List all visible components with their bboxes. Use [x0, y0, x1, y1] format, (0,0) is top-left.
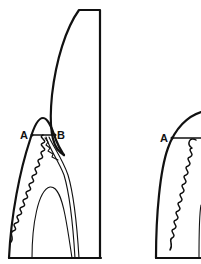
- left-panel: A B: [9, 10, 101, 258]
- right-inner-arch: [199, 205, 201, 258]
- left-point-a-marker: [31, 134, 34, 137]
- right-label-a: A: [160, 132, 168, 144]
- left-label-a: A: [20, 129, 28, 141]
- left-inner-arch: [32, 187, 72, 258]
- left-wavy-line: [11, 135, 45, 242]
- left-label-b: B: [57, 129, 65, 141]
- right-wavy-line: [170, 139, 196, 250]
- right-point-a-marker: [171, 137, 174, 140]
- diagram-canvas: A B A: [0, 0, 201, 264]
- right-panel: A: [156, 112, 201, 258]
- left-outer-arch: [9, 118, 64, 258]
